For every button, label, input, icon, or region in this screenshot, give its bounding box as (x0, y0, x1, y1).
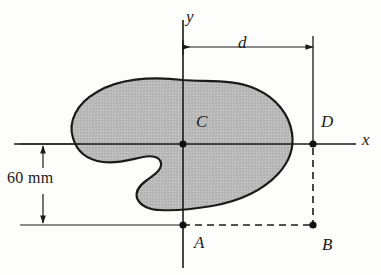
dimension-label-60mm: 60 mm (7, 170, 53, 186)
diagram-canvas (0, 0, 381, 275)
point-B-dot (309, 221, 316, 228)
point-label-C: C (196, 113, 207, 130)
dimension-label-d: d (238, 34, 247, 51)
point-label-B: B (322, 236, 332, 253)
technical-diagram: y x d C D A B 60 mm (0, 0, 381, 275)
point-label-D: D (321, 113, 333, 130)
y-axis-label: y (186, 8, 194, 25)
x-axis-label: x (362, 131, 370, 148)
point-D-dot (309, 140, 316, 147)
point-A-dot (179, 221, 186, 228)
point-label-A: A (194, 234, 204, 251)
point-C-dot (179, 140, 186, 147)
